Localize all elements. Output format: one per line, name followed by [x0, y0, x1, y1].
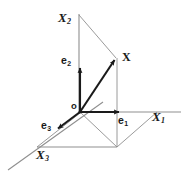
basis-label-e1: e1 — [118, 115, 128, 128]
axis-label-x3-sub: 3 — [45, 154, 49, 163]
axis-label-x2-sub: 2 — [67, 17, 71, 26]
axis-label-x1-base: X — [152, 109, 161, 124]
vector-label-x-base: X — [122, 50, 131, 64]
basis-label-e1-base: e — [118, 114, 124, 126]
axis-label-x1: X1 — [152, 110, 165, 125]
basis-label-e3: e3 — [41, 120, 51, 133]
basis-label-e2: e2 — [61, 55, 71, 68]
diagram-canvas — [0, 0, 185, 175]
construction-top-diagonal — [79, 15, 116, 58]
vector-arrow-x — [80, 60, 115, 112]
vector-diagram-figure: X2 X1 X3 e1 e2 e3 X o — [0, 0, 185, 175]
origin-label: o — [71, 101, 77, 111]
construction-foot-to-origin — [80, 112, 117, 147]
vector-label-x: X — [122, 51, 131, 63]
origin-point — [79, 111, 82, 114]
basis-label-e2-sub: 2 — [67, 60, 71, 67]
axis-label-x2-base: X — [58, 10, 67, 25]
basis-label-e1-sub: 1 — [124, 120, 128, 127]
axis-label-x3-base: X — [36, 147, 45, 162]
origin-label-text: o — [71, 100, 77, 111]
axis-label-x1-sub: 1 — [161, 116, 165, 125]
axis-label-x2: X2 — [58, 11, 71, 26]
basis-label-e3-sub: 3 — [47, 125, 51, 132]
basis-label-e2-base: e — [61, 54, 67, 66]
axis-label-x3: X3 — [36, 148, 49, 163]
basis-label-e3-base: e — [41, 119, 47, 131]
